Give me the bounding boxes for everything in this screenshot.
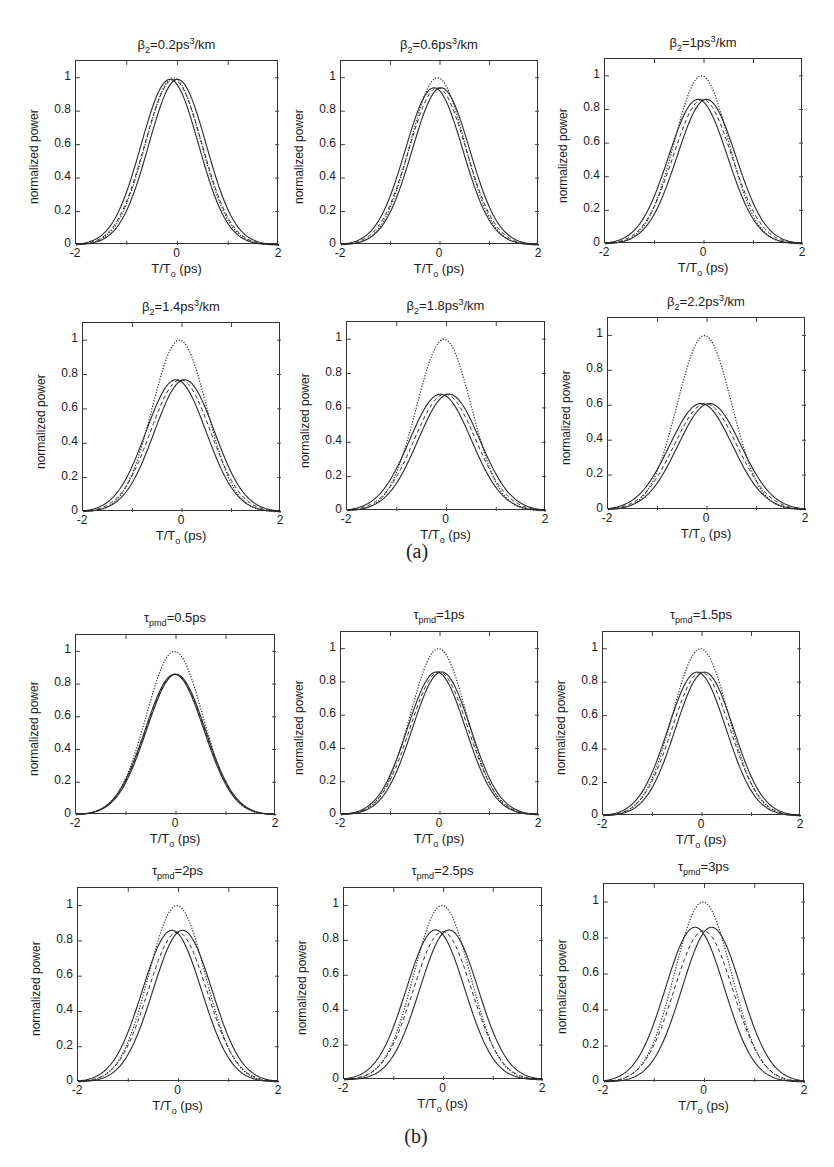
x-tick-label: 2 — [535, 512, 555, 526]
caption-b: (b) — [386, 1125, 446, 1148]
curve-solid — [76, 674, 276, 814]
y-tick-label: 1 — [571, 893, 599, 907]
x-tick-label: 2 — [794, 1083, 814, 1097]
x-tick-label: 0 — [429, 816, 449, 830]
panel-title: β2=1ps3/km — [604, 34, 802, 53]
curve-solid — [341, 88, 539, 245]
x-axis-label: T/To (ps) — [75, 261, 278, 279]
curve-solid — [605, 99, 803, 243]
x-tick-label: -2 — [333, 1081, 353, 1095]
x-tick-label: 2 — [795, 511, 815, 525]
x-tick-label: -2 — [65, 246, 85, 260]
panel-title: τpmd=3ps — [603, 859, 804, 877]
x-axis-label: T/To (ps) — [340, 261, 538, 279]
y-axis-label: normalized power — [34, 374, 48, 469]
curves — [76, 635, 276, 815]
curve-solid — [78, 930, 279, 1081]
y-tick-label: 0.4 — [572, 168, 600, 182]
curve-solid — [608, 404, 806, 510]
y-tick-label: 0.4 — [571, 1001, 599, 1015]
curve-dashed — [76, 79, 279, 244]
x-tick-label: 0 — [167, 246, 187, 260]
x-tick-label: -2 — [65, 816, 85, 830]
y-tick-label: 0.8 — [314, 365, 342, 379]
y-tick-label: 0.8 — [308, 673, 336, 687]
curve-dashed — [83, 380, 281, 512]
x-axis-label: T/To (ps) — [346, 527, 545, 545]
curve-solid — [344, 930, 543, 1080]
curves — [605, 59, 803, 244]
x-axis-label: T/To (ps) — [75, 831, 275, 849]
curves — [344, 888, 543, 1080]
curve-solid — [83, 380, 281, 512]
y-axis-label: normalized power — [27, 109, 41, 204]
curve-dashed — [605, 99, 803, 243]
y-tick-label: 0.2 — [43, 773, 71, 787]
y-tick-label: 0.4 — [311, 1001, 339, 1015]
curve-dotted — [605, 76, 803, 244]
curve-solid — [83, 380, 281, 512]
y-tick-label: 0.4 — [43, 169, 71, 183]
curve-solid — [604, 927, 805, 1082]
x-axis-label: T/To (ps) — [82, 528, 280, 546]
panel-title: β2=0.6ps3/km — [340, 36, 538, 55]
curve-solid — [347, 394, 546, 510]
y-tick-label: 0.4 — [314, 433, 342, 447]
curve-solid — [76, 674, 276, 814]
y-tick-label: 1 — [50, 331, 78, 345]
curves — [83, 323, 281, 512]
x-axis-label: T/To (ps) — [343, 1096, 542, 1114]
curve-solid — [341, 672, 539, 815]
curve-dotted — [604, 902, 805, 1082]
y-tick-label: 1 — [43, 69, 71, 83]
y-tick-label: 1 — [45, 897, 73, 911]
x-tick-label: 0 — [171, 513, 191, 527]
x-tick-label: 2 — [268, 246, 288, 260]
y-tick-label: 0.4 — [43, 741, 71, 755]
x-axis-label: T/To (ps) — [77, 1098, 278, 1116]
y-tick-label: 0.8 — [43, 675, 71, 689]
y-tick-label: 0.2 — [311, 1036, 339, 1050]
curve-dashed — [603, 672, 801, 815]
plot-area — [82, 322, 280, 511]
y-tick-label: 0.4 — [308, 739, 336, 753]
y-tick-label: 0.6 — [50, 400, 78, 414]
y-tick-label: 0.6 — [43, 708, 71, 722]
x-tick-label: -2 — [72, 513, 92, 527]
y-axis-label: normalized power — [298, 373, 312, 468]
y-tick-label: 0.2 — [575, 466, 603, 480]
curve-dotted — [76, 651, 276, 814]
y-tick-label: 0.6 — [314, 399, 342, 413]
panel-title: β2=0.2ps3/km — [75, 36, 278, 55]
y-tick-label: 1 — [575, 326, 603, 340]
x-tick-label: 0 — [433, 1081, 453, 1095]
curve-solid — [603, 672, 801, 816]
y-tick-label: 0.2 — [571, 1037, 599, 1051]
y-tick-label: 0.6 — [308, 136, 336, 150]
panel-title: τpmd=1.5ps — [602, 607, 800, 625]
curve-solid — [76, 79, 279, 244]
x-tick-label: 2 — [532, 1081, 552, 1095]
y-tick-label: 0.2 — [43, 203, 71, 217]
x-tick-label: 0 — [168, 1083, 188, 1097]
curve-dashed — [608, 404, 806, 510]
plot-area — [340, 631, 538, 814]
curves — [78, 888, 279, 1082]
y-tick-label: 0.8 — [572, 100, 600, 114]
curve-solid — [608, 404, 806, 510]
x-tick-label: 2 — [792, 245, 812, 259]
x-tick-label: 0 — [694, 1083, 714, 1097]
plot-area — [346, 321, 545, 510]
curve-dashed — [341, 88, 539, 245]
y-tick-label: 0.8 — [311, 931, 339, 945]
plot-area — [603, 883, 804, 1081]
y-axis-label: normalized power — [559, 370, 573, 465]
y-tick-label: 0.8 — [575, 361, 603, 375]
y-tick-label: 0.8 — [308, 102, 336, 116]
x-tick-label: -2 — [330, 246, 350, 260]
panel-title: β2=1.4ps3/km — [82, 298, 280, 317]
curve-dashed — [347, 394, 546, 510]
x-axis-label: T/To (ps) — [603, 1098, 804, 1116]
y-tick-label: 0.2 — [45, 1038, 73, 1052]
curve-solid — [603, 672, 801, 816]
